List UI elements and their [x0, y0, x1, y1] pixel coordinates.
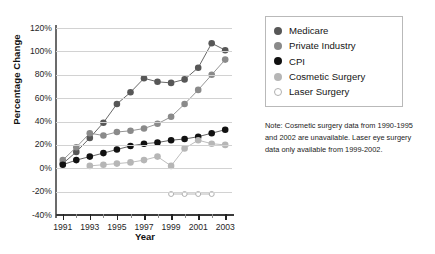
data-point — [141, 140, 148, 147]
x-axis-minor-tick — [76, 214, 77, 218]
x-axis-major-tick — [117, 214, 119, 220]
data-point — [114, 101, 121, 108]
data-point — [222, 56, 229, 63]
data-point — [141, 157, 148, 164]
legend-marker-icon — [274, 57, 282, 65]
y-axis-tick-label: 80% — [12, 69, 52, 79]
data-point — [114, 160, 121, 167]
data-point — [127, 128, 134, 135]
data-point — [100, 150, 107, 157]
x-axis-major-tick — [225, 214, 227, 220]
data-point — [141, 125, 148, 132]
x-axis-major-tick — [90, 214, 92, 220]
gridline — [56, 51, 232, 52]
y-axis-tick-labels: 120%100%80%60%40%20%0%-20%-40% — [8, 28, 52, 215]
legend-item: Private Industry — [274, 38, 395, 53]
data-point — [222, 47, 229, 54]
data-point — [168, 114, 175, 121]
legend-item: Cosmetic Surgery — [274, 69, 395, 84]
data-point — [141, 75, 148, 82]
data-point — [181, 101, 188, 108]
x-axis-title: Year — [56, 231, 234, 242]
data-point — [127, 159, 134, 166]
data-point — [127, 89, 134, 96]
gridline — [56, 28, 232, 29]
data-point — [195, 87, 202, 94]
x-axis-minor-tick — [131, 214, 132, 218]
data-point — [100, 161, 107, 168]
y-axis-tick-label: -20% — [12, 186, 52, 196]
plot-area — [56, 28, 232, 215]
data-point — [60, 161, 67, 168]
chart-note: Note: Cosmetic surgery data from 1990-19… — [265, 120, 425, 156]
data-point — [208, 130, 215, 137]
data-point — [195, 64, 202, 71]
y-axis-tick-label: 40% — [12, 116, 52, 126]
data-point — [100, 119, 107, 126]
legend-item: Medicare — [274, 23, 395, 38]
data-point — [181, 76, 188, 83]
data-point — [181, 145, 188, 152]
data-point — [222, 126, 229, 133]
data-point — [73, 157, 80, 164]
gridline — [56, 75, 232, 76]
x-axis-major-tick — [144, 214, 146, 220]
series-private-industry — [60, 56, 229, 163]
data-point — [208, 140, 215, 147]
gridline — [56, 145, 232, 146]
x-axis-minor-tick — [185, 214, 186, 218]
data-point — [195, 137, 202, 144]
data-point — [114, 146, 121, 153]
data-point — [114, 129, 121, 136]
chart-figure: Percentage Change 120%100%80%60%40%20%0%… — [0, 0, 435, 254]
legend-item: Laser Surgery — [274, 85, 395, 100]
data-point — [87, 130, 94, 137]
legend-marker-icon — [274, 42, 282, 50]
data-point — [181, 136, 188, 143]
data-point — [154, 79, 161, 86]
legend-marker-icon — [274, 88, 282, 96]
data-point — [208, 40, 215, 47]
gridline — [56, 98, 232, 99]
gridline — [56, 168, 232, 169]
x-axis-minor-tick — [212, 214, 213, 218]
legend-item: CPI — [274, 54, 395, 69]
x-axis-minor-tick — [103, 214, 104, 218]
x-axis-minor-tick — [158, 214, 159, 218]
y-axis-tick-label: 0% — [12, 163, 52, 173]
x-axis-major-tick — [171, 214, 173, 220]
gridline — [56, 192, 232, 193]
chart-legend: MedicarePrivate IndustryCPICosmetic Surg… — [265, 16, 403, 107]
y-axis-tick-label: 120% — [12, 23, 52, 33]
data-point — [168, 80, 175, 87]
y-axis-tick-label: 20% — [12, 139, 52, 149]
data-point — [168, 137, 175, 144]
x-axis-major-tick — [63, 214, 65, 220]
data-point — [100, 132, 107, 139]
legend-item-label: Laser Surgery — [289, 87, 349, 97]
legend-item-label: CPI — [289, 57, 305, 67]
legend-item-label: Medicare — [289, 26, 328, 36]
legend-marker-icon — [274, 73, 282, 81]
legend-marker-icon — [274, 27, 282, 35]
y-axis-tick-label: 60% — [12, 93, 52, 103]
gridline — [56, 122, 232, 123]
x-axis-major-tick — [198, 214, 200, 220]
y-axis-tick-label: -40% — [12, 210, 52, 220]
legend-item-label: Cosmetic Surgery — [289, 72, 365, 82]
legend-item-label: Private Industry — [289, 41, 356, 51]
data-point — [87, 153, 94, 160]
data-point — [127, 143, 134, 150]
y-axis-tick-label: 100% — [12, 46, 52, 56]
series-medicare — [60, 40, 229, 167]
data-point — [154, 153, 161, 160]
